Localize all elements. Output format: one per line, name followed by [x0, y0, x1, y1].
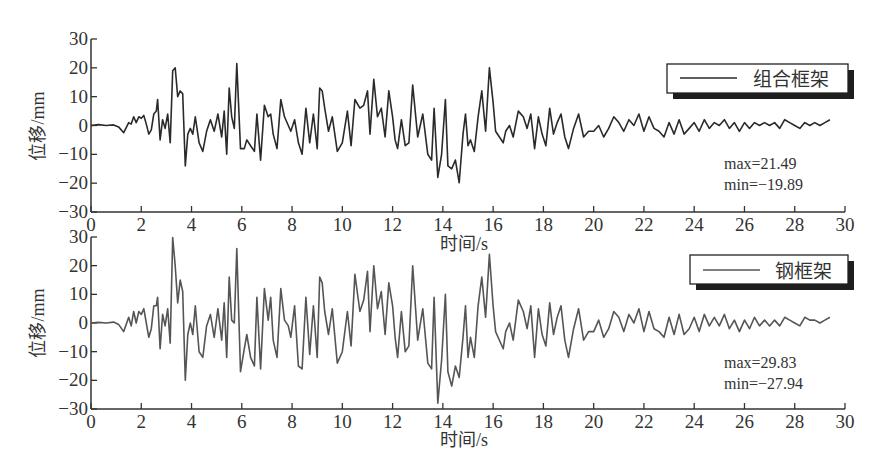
x-tick-label: 14	[433, 411, 453, 432]
x-tick-label: 20	[584, 411, 603, 432]
y-tick-label: 10	[69, 283, 88, 304]
legend-label: 钢框架	[775, 260, 832, 282]
y-tick-label: −20	[58, 172, 88, 193]
x-tick-label: 10	[333, 411, 352, 432]
x-tick-label: 22	[634, 411, 653, 432]
y-tick-label: 10	[69, 86, 88, 107]
x-tick-label: 28	[785, 411, 804, 432]
x-tick-label: 16	[484, 411, 503, 432]
x-tick-label: 14	[433, 214, 453, 235]
y-tick-label: 20	[69, 57, 88, 78]
x-tick-label: 20	[584, 214, 603, 235]
y-tick-label: −30	[58, 398, 88, 419]
x-tick-label: 26	[735, 214, 754, 235]
x-tick-label: 30	[836, 411, 855, 432]
plot-axes: 3020100−10−20−30024681012141618202224262…	[58, 28, 854, 235]
x-tick-label: 30	[836, 214, 855, 235]
x-tick-label: 4	[187, 411, 197, 432]
legend-label: 组合框架	[753, 68, 829, 90]
x-tick-label: 12	[383, 214, 402, 235]
x-tick-label: 4	[187, 214, 197, 235]
y-axis-title: 位移/mm	[28, 91, 48, 160]
x-tick-label: 16	[484, 214, 503, 235]
y-axis-title: 位移/mm	[28, 288, 48, 357]
x-tick-label: 12	[383, 411, 402, 432]
x-tick-label: 26	[735, 411, 754, 432]
y-tick-label: 0	[79, 312, 89, 333]
min-annotation: min=−27.94	[724, 375, 803, 392]
legend: 钢框架	[690, 255, 854, 290]
max-annotation: max=21.49	[724, 155, 797, 172]
x-tick-label: 0	[86, 411, 96, 432]
y-tick-label: 30	[69, 28, 88, 49]
composite-frame-plot: 3020100−10−20−30024681012141618202224262…	[28, 28, 855, 254]
max-annotation: max=29.83	[724, 354, 797, 371]
y-tick-label: −10	[58, 143, 88, 164]
x-tick-label: 8	[287, 214, 297, 235]
y-tick-label: 30	[69, 226, 88, 247]
y-tick-label: −20	[58, 369, 88, 390]
x-tick-label: 28	[785, 214, 804, 235]
x-axis-title: 时间/s	[440, 234, 488, 254]
steel-frame-plot: 3020100−10−20−30024681012141618202224262…	[28, 226, 855, 450]
displacement-time-history-figure: 3020100−10−20−30024681012141618202224262…	[0, 0, 883, 476]
y-tick-label: −30	[58, 201, 88, 222]
x-tick-label: 24	[685, 411, 705, 432]
x-tick-label: 22	[634, 214, 653, 235]
x-tick-label: 10	[333, 214, 352, 235]
y-tick-label: 20	[69, 255, 88, 276]
legend: 组合框架	[667, 64, 854, 99]
x-axis-title: 时间/s	[440, 430, 488, 450]
x-tick-label: 2	[137, 411, 147, 432]
x-tick-label: 18	[534, 214, 553, 235]
x-tick-label: 6	[237, 411, 247, 432]
x-tick-label: 6	[237, 214, 247, 235]
y-tick-label: 0	[79, 115, 89, 136]
min-annotation: min=−19.89	[724, 176, 803, 193]
x-tick-label: 18	[534, 411, 553, 432]
x-tick-label: 24	[685, 214, 705, 235]
x-tick-label: 2	[137, 214, 147, 235]
x-tick-label: 8	[287, 411, 297, 432]
y-tick-label: −10	[58, 341, 88, 362]
